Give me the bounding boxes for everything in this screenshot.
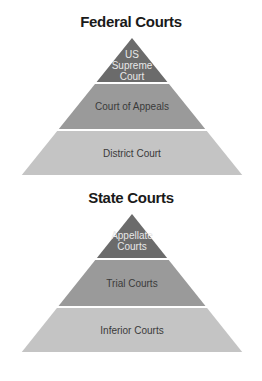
state-courts-pyramid: AppellateCourtsTrial CourtsInferior Cour… [22,214,242,352]
tier-label-line: Courts [117,241,146,252]
tier-label-district-court: District Court [103,148,161,159]
tier-label-court-of-appeals: Court of Appeals [95,101,169,112]
tier-label-line: District Court [103,148,161,159]
federal-courts-pyramid: USSupremeCourtCourt of AppealsDistrict C… [22,38,242,175]
tier-label-line: Trial Courts [106,278,157,289]
tier-label-line: Appellate [111,230,153,241]
tier-label-line: Court [120,71,145,82]
tier-label-trial-courts: Trial Courts [106,278,157,289]
tier-label-line: Inferior Courts [100,325,163,336]
tier-label-line: Supreme [112,60,153,71]
tier-label-line: Court of Appeals [95,101,169,112]
court-pyramids-diagram: USSupremeCourtCourt of AppealsDistrict C… [0,0,262,381]
tier-label-line: US [125,49,139,60]
tier-label-inferior-courts: Inferior Courts [100,325,163,336]
